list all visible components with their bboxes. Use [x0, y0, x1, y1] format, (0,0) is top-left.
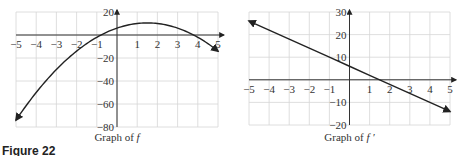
y-tick-label: −40 [97, 75, 115, 87]
x-tick-label: −5 [243, 83, 255, 95]
x-tick-label: −4 [30, 38, 42, 50]
x-tick-label: 3 [175, 38, 181, 50]
chart-graph-of-f: −5−4−3−2−11234520−20−40−60−80 Graph of f [10, 6, 224, 143]
tick-labels: −5−4−3−2−112345302010−10−20 [243, 6, 453, 131]
y-tick-label: 30 [336, 6, 348, 18]
x-tick-label: 1 [367, 83, 373, 95]
y-tick-label: −20 [97, 52, 115, 64]
x-tick-label: 5 [215, 38, 221, 50]
x-tick-label: 5 [447, 83, 453, 95]
x-tick-label: −1 [324, 83, 336, 95]
y-tick-label: −60 [97, 98, 115, 110]
x-tick-label: 2 [155, 38, 161, 50]
y-tick-label: −20 [329, 119, 347, 131]
x-tick-label: −3 [51, 38, 63, 50]
y-tick-label: 20 [336, 29, 348, 41]
chart-caption: Graph of f [94, 131, 141, 143]
figure-canvas: −5−4−3−2−11234520−20−40−60−80 Graph of f… [0, 0, 459, 156]
chart-caption: Graph of f ′ [324, 131, 375, 143]
y-tick-label: −10 [329, 96, 347, 108]
tick-labels: −5−4−3−2−11234520−20−40−60−80 [10, 6, 221, 133]
x-tick-label: −3 [283, 83, 295, 95]
x-tick-label: −5 [10, 38, 22, 50]
chart-graph-of-f-prime: −5−4−3−2−112345302010−10−20 Graph of f ′ [243, 6, 456, 143]
y-tick-label: 20 [103, 6, 115, 18]
x-tick-label: −4 [263, 83, 275, 95]
x-tick-label: −2 [303, 83, 315, 95]
x-tick-label: 4 [427, 83, 433, 95]
x-tick-label: 4 [195, 38, 201, 50]
figure-label: Figure 22 [2, 144, 56, 156]
x-tick-label: 1 [134, 38, 140, 50]
